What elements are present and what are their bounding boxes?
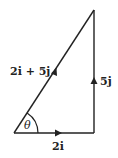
vector-triangle-diagram: 2i + 5j 5j 2i θ xyxy=(0,0,118,158)
label-5j: 5j xyxy=(100,75,112,88)
label-resultant: 2i + 5j xyxy=(10,65,50,78)
arrow-right-icon xyxy=(55,130,62,137)
label-2i: 2i xyxy=(52,140,64,153)
label-theta: θ xyxy=(24,119,31,132)
arrow-up-icon xyxy=(91,77,98,84)
